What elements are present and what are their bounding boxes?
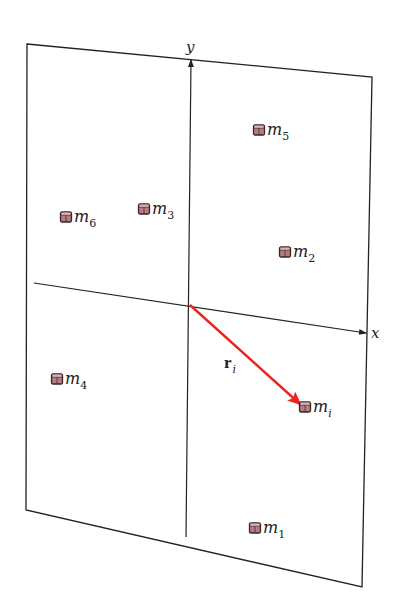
diagram-canvas: y x ri m5 m6 m3 m2 m4 mi m1 [0,0,402,608]
cube-icon [280,247,291,257]
x-axis-label: x [371,324,380,342]
cube-icon [61,212,72,222]
y-axis-label: y [185,38,195,56]
cube-icon [139,204,150,214]
plane [26,44,372,587]
cube-icon [250,523,261,533]
cube-icon [254,125,265,135]
cube-icon [52,374,63,384]
cube-icon [300,402,311,412]
